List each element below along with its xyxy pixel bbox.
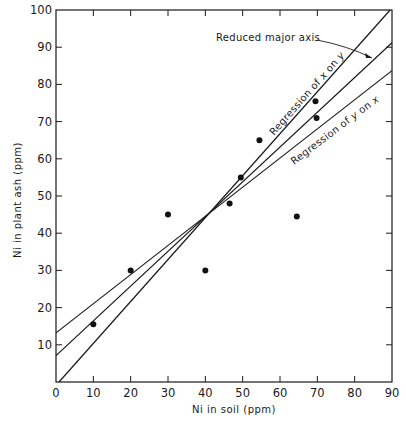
x-tick-label: 70 [310, 386, 325, 400]
y-tick-label: 10 [37, 338, 52, 352]
y-tick-label: 80 [37, 77, 52, 91]
line-regression-of-y-on-x [56, 71, 392, 333]
y-tick-label: 60 [37, 152, 52, 166]
x-tick-label: 30 [161, 386, 176, 400]
data-point [90, 321, 96, 327]
data-points [90, 98, 319, 327]
data-point [312, 98, 318, 104]
scatter-chart: 0102030405060708090 10203040506070809010… [0, 0, 406, 424]
label-x-on-y-prefix: Regression of [267, 74, 325, 137]
label-y-on-x-prefix: Regression of [289, 113, 355, 167]
x-axis-title: Ni in soil (ppm) [192, 404, 276, 415]
line-regression-of-x-on-y [59, 10, 390, 382]
y-tick-label: 50 [37, 189, 52, 203]
x-tick-label: 40 [198, 386, 213, 400]
y-tick-label: 100 [30, 3, 52, 17]
data-point [256, 137, 262, 143]
x-tick-labels: 0102030405060708090 [52, 386, 399, 400]
x-tick-label: 50 [235, 386, 250, 400]
annotation-reduced-major-axis: Reduced major axis [216, 32, 320, 43]
x-tick-label: 20 [123, 386, 138, 400]
data-point [227, 200, 233, 206]
x-tick-label: 0 [52, 386, 59, 400]
y-axis-title: Ni in plant ash (ppm) [12, 142, 23, 258]
data-point [165, 212, 171, 218]
data-point [294, 213, 300, 219]
data-point [202, 267, 208, 273]
x-tick-label: 60 [273, 386, 288, 400]
data-point [238, 174, 244, 180]
y-tick-labels: 102030405060708090100 [30, 3, 52, 352]
y-tick-label: 90 [37, 40, 52, 54]
data-point [314, 115, 320, 121]
y-tick-label: 40 [37, 226, 52, 240]
x-tick-label: 10 [86, 386, 101, 400]
regression-lines [56, 10, 392, 382]
data-point [128, 267, 134, 273]
x-tick-label: 80 [347, 386, 362, 400]
x-tick-label: 90 [385, 386, 400, 400]
y-tick-label: 70 [37, 115, 52, 129]
line-reduced-major-axis [56, 43, 392, 356]
y-tick-label: 30 [37, 263, 52, 277]
y-tick-label: 20 [37, 301, 52, 315]
